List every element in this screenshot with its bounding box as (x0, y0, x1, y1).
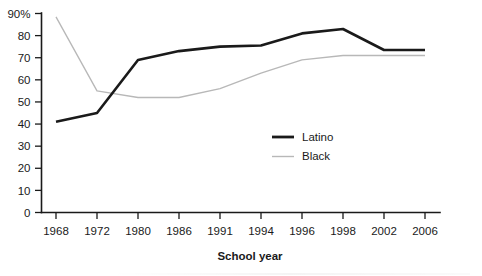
x-axis-tick-labels: 1968197219801986199119941996199820022006 (43, 225, 438, 237)
legend-label-black: Black (302, 150, 330, 162)
x-axis-tick-label: 1972 (84, 225, 110, 237)
y-axis-ticks (35, 14, 42, 213)
x-axis-group: 1968197219801986199119941996199820022006… (42, 213, 441, 263)
y-axis-tick-label: 70 (18, 52, 31, 64)
y-axis-tick-label: 20 (18, 162, 31, 174)
chart-legend: LatinoBlack (272, 131, 333, 163)
y-axis-tick-labels: 0102030405060708090% (7, 8, 30, 219)
y-axis-tick-label: 30 (18, 140, 31, 152)
x-axis-tick-label: 1996 (289, 225, 315, 237)
x-axis-tick-label: 2006 (412, 225, 438, 237)
x-axis-tick-label: 1980 (125, 225, 151, 237)
y-axis-tick-label: 80 (18, 30, 31, 42)
y-axis-tick-label: 50 (18, 96, 31, 108)
y-axis-tick-label: 40 (18, 118, 31, 130)
line-chart: 0102030405060708090% 1968197219801986199… (0, 0, 482, 276)
scan-artifact (110, 273, 470, 275)
x-axis-tick-label: 1998 (330, 225, 356, 237)
series-line-latino (56, 29, 425, 122)
y-axis-tick-label: 90% (7, 8, 30, 20)
x-axis-tick-label: 1991 (207, 225, 233, 237)
y-axis-group: 0102030405060708090% (7, 8, 41, 219)
series-line-black (56, 17, 425, 98)
data-series-group (56, 17, 425, 122)
y-axis-tick-label: 10 (18, 185, 31, 197)
y-axis-tick-label: 0 (24, 207, 30, 219)
x-axis-title: School year (217, 250, 283, 262)
x-axis-tick-label: 2002 (371, 225, 397, 237)
x-axis-tick-label: 1986 (166, 225, 192, 237)
chart-container: 0102030405060708090% 1968197219801986199… (0, 0, 482, 276)
x-axis-tick-label: 1994 (248, 225, 274, 237)
x-axis-tick-label: 1968 (43, 225, 69, 237)
x-axis-ticks (56, 213, 425, 220)
legend-label-latino: Latino (302, 131, 333, 143)
y-axis-tick-label: 60 (18, 74, 31, 86)
